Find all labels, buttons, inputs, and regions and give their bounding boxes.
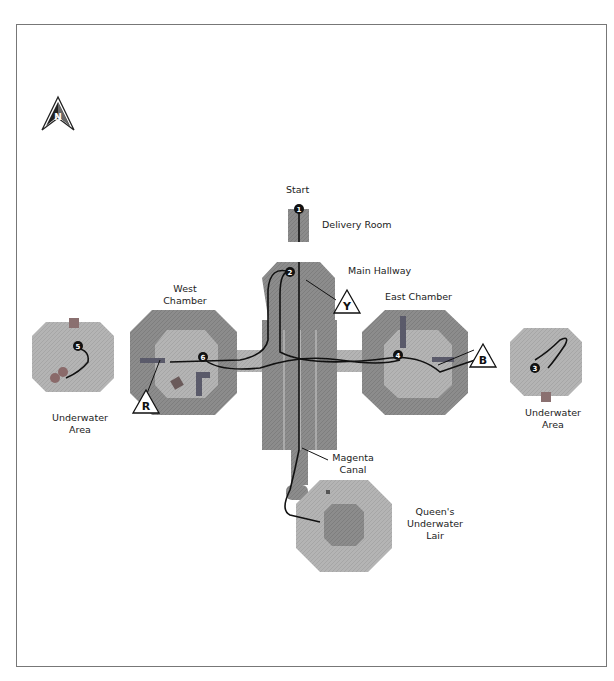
label-main-hallway: Main Hallway <box>348 265 411 277</box>
svg-text:3: 3 <box>533 365 538 373</box>
label-magenta-canal: Magenta Canal <box>328 452 378 476</box>
svg-text:R: R <box>142 400 151 413</box>
label-start: Start <box>286 184 309 196</box>
label-queens-lair: Queen's Underwater Lair <box>400 506 470 542</box>
waypoint-1: 1 <box>294 204 304 214</box>
svg-text:4: 4 <box>396 352 401 360</box>
waypoint-3: 3 <box>530 363 540 373</box>
waypoint-5: 5 <box>73 341 83 351</box>
dungeon-map: N <box>0 0 614 681</box>
underwater-area-west <box>32 318 114 392</box>
label-delivery-room: Delivery Room <box>322 219 392 231</box>
waypoint-2: 2 <box>285 267 295 277</box>
svg-text:2: 2 <box>288 269 293 277</box>
label-west-chamber: West Chamber <box>160 283 210 307</box>
waypoint-4: 4 <box>393 350 403 360</box>
svg-text:6: 6 <box>201 354 206 362</box>
svg-text:1: 1 <box>297 206 302 214</box>
svg-text:Y: Y <box>342 300 352 313</box>
compass-north-icon: N <box>42 97 74 130</box>
underwater-area-east <box>510 328 582 402</box>
label-east-chamber: East Chamber <box>385 291 452 303</box>
label-underwater-area-west: Underwater Area <box>45 412 115 436</box>
label-underwater-area-east: Underwater Area <box>518 407 588 431</box>
waypoint-6: 6 <box>198 352 208 362</box>
svg-text:5: 5 <box>76 343 81 351</box>
svg-text:N: N <box>54 112 62 122</box>
svg-text:B: B <box>479 354 487 367</box>
queens-underwater-lair <box>296 480 392 572</box>
